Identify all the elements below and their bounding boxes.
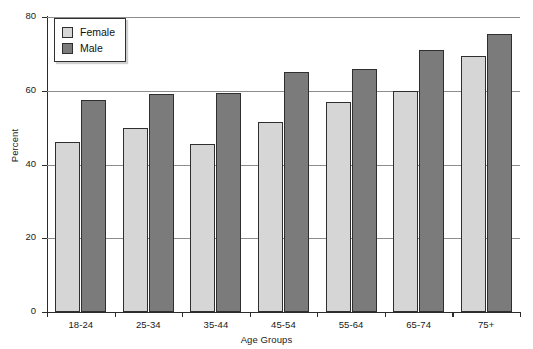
bar-55-64-male bbox=[352, 69, 377, 312]
legend-label-female: Female bbox=[80, 26, 115, 38]
bar-35-44-female bbox=[190, 144, 215, 312]
y-tick-label: 20 bbox=[10, 231, 36, 242]
x-tick-label: 45-54 bbox=[249, 319, 319, 330]
y-tick-label: 60 bbox=[10, 84, 36, 95]
y-tick-label: 40 bbox=[10, 158, 36, 169]
y-axis-title: Percent bbox=[9, 106, 20, 186]
x-tick-mark bbox=[115, 312, 116, 317]
bar-65-74-male bbox=[419, 50, 444, 312]
legend-item-male: Male bbox=[62, 40, 115, 56]
x-tick-label: 55-64 bbox=[316, 319, 386, 330]
legend-swatch-female-icon bbox=[62, 27, 73, 38]
legend-label-male: Male bbox=[80, 42, 103, 54]
bar-18-24-male bbox=[81, 100, 106, 312]
x-tick-label: 18-24 bbox=[46, 319, 116, 330]
legend-item-female: Female bbox=[62, 24, 115, 40]
bar-55-64-female bbox=[326, 102, 351, 312]
x-tick-label: 25-34 bbox=[113, 319, 183, 330]
x-axis-title: Age Groups bbox=[0, 334, 533, 345]
x-tick-mark bbox=[452, 312, 453, 317]
bar-25-34-female bbox=[123, 128, 148, 312]
bar-chart: Percent 020406080 18-2425-3435-4445-5455… bbox=[0, 0, 533, 349]
x-tick-label: 35-44 bbox=[181, 319, 251, 330]
bar-75plus-female bbox=[461, 56, 486, 312]
bar-25-34-male bbox=[149, 94, 174, 312]
bar-45-54-female bbox=[258, 122, 283, 312]
chart-legend: Female Male bbox=[54, 18, 126, 62]
x-tick-label: 65-74 bbox=[384, 319, 454, 330]
y-tick-label: 0 bbox=[10, 305, 36, 316]
x-tick-mark bbox=[385, 312, 386, 317]
x-tick-mark bbox=[182, 312, 183, 317]
bar-18-24-female bbox=[55, 142, 80, 312]
x-tick-mark bbox=[317, 312, 318, 317]
x-tick-mark bbox=[520, 312, 521, 317]
legend-swatch-male-icon bbox=[62, 43, 73, 54]
x-tick-mark bbox=[47, 312, 48, 317]
bar-45-54-male bbox=[284, 72, 309, 312]
bar-35-44-male bbox=[216, 93, 241, 312]
y-tick-label: 80 bbox=[10, 10, 36, 21]
bar-65-74-female bbox=[393, 91, 418, 312]
x-tick-mark bbox=[250, 312, 251, 317]
bar-75plus-male bbox=[487, 34, 512, 312]
x-tick-label: 75+ bbox=[451, 319, 521, 330]
